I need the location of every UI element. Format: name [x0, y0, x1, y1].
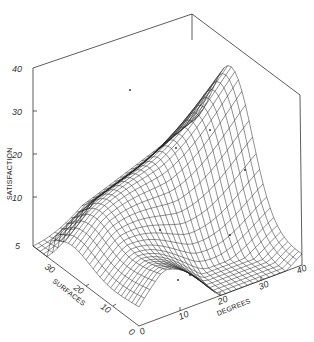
- x-tick-10: 10: [177, 309, 190, 322]
- back-top-edge-left: [33, 14, 192, 68]
- y-tick-10: 10: [99, 301, 113, 315]
- z-tick-30: 30: [12, 107, 22, 117]
- z-tick-40: 40: [12, 64, 22, 74]
- surface-mesh: [33, 66, 302, 307]
- y-tick-30: 30: [43, 261, 57, 275]
- z-tick-10: 10: [12, 193, 22, 203]
- z-tick-5: 5: [15, 241, 21, 251]
- x-tick-30: 30: [257, 279, 270, 292]
- back-top-edge-right: [192, 14, 300, 95]
- right-vertical-edge: [300, 95, 302, 265]
- x-tick-0: 0: [138, 326, 146, 337]
- z-axis-label: SATISFACTION: [6, 148, 13, 200]
- chart-container: 40 30 20 10 5 SATISFACTION 30 20 10 0 SU…: [0, 0, 314, 342]
- surface-plot: 40 30 20 10 5 SATISFACTION 30 20 10 0 SU…: [0, 0, 314, 342]
- x-tick-40: 40: [295, 263, 308, 276]
- y-tick-0: 0: [127, 326, 137, 337]
